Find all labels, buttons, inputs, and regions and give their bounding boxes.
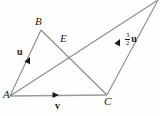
- vertex-label-b: B: [35, 16, 42, 27]
- arrowhead-group: [24, 38, 122, 98]
- fraction-numerator: 3: [125, 32, 130, 39]
- vector-label-v: v: [55, 101, 60, 111]
- vector-symbol-u: u: [131, 34, 137, 44]
- fraction-denominator: 2: [125, 39, 130, 47]
- arrowhead-v: [53, 92, 60, 98]
- vertex-label-e: E: [60, 33, 67, 44]
- geometry-canvas: [0, 0, 160, 116]
- vertex-label-a: A: [3, 89, 10, 100]
- segment-group: [10, 0, 158, 96]
- vertex-label-c: C: [104, 96, 111, 107]
- vector-label-three-halves-u: 3 2 u: [125, 32, 137, 47]
- segment-c-d: [107, 0, 158, 95]
- vector-label-u: u: [17, 47, 23, 57]
- arrowhead-three-halves-u: [114, 38, 122, 47]
- fraction-three-halves: 3 2: [125, 32, 130, 47]
- vector-diagram-figure: A B C E u v 3 2 u: [0, 0, 160, 116]
